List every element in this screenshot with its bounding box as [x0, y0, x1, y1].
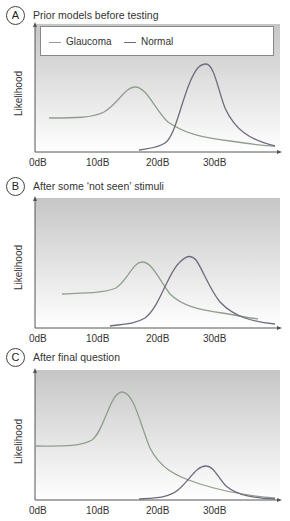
x-tick: 0dB	[29, 333, 47, 344]
x-tick: 30dB	[203, 157, 227, 168]
legend-item-glaucoma: Glaucoma	[49, 36, 112, 47]
x-tick: 30dB	[203, 333, 227, 344]
panel-a: A Prior models before testing Likelihood…	[0, 0, 290, 172]
legend-label: Normal	[141, 36, 173, 47]
plot-background	[35, 198, 280, 328]
x-tick: 0dB	[29, 157, 47, 168]
plot-background	[35, 370, 280, 500]
y-axis-label: Likelihood	[13, 419, 24, 464]
chart-b: Likelihood 0dB 10dB 20dB 30dB	[0, 172, 290, 344]
legend: Glaucoma Normal	[40, 26, 274, 56]
x-tick: 0dB	[29, 505, 47, 516]
legend-item-normal: Normal	[124, 36, 173, 47]
x-tick: 20dB	[146, 505, 170, 516]
y-axis-label: Likelihood	[13, 245, 24, 290]
legend-label: Glaucoma	[66, 36, 112, 47]
y-axis-label: Likelihood	[13, 71, 24, 116]
x-tick: 10dB	[86, 157, 110, 168]
chart-c: Likelihood 0dB 10dB 20dB 30dB	[0, 344, 290, 521]
x-tick: 30dB	[203, 505, 227, 516]
legend-swatch-normal	[124, 42, 136, 43]
x-tick: 10dB	[86, 333, 110, 344]
x-tick: 20dB	[146, 333, 170, 344]
x-tick: 10dB	[86, 505, 110, 516]
panel-b: B After some ‘not seen’ stimuli Likeliho…	[0, 172, 290, 344]
panel-c: C After final question Likelihood 0dB 10…	[0, 344, 290, 521]
x-tick: 20dB	[146, 157, 170, 168]
legend-swatch-glaucoma	[49, 42, 61, 43]
